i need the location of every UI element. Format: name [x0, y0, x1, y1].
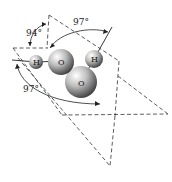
- angle-label-94: 94°: [26, 28, 42, 38]
- atom-label-h-left: H: [33, 58, 40, 67]
- atom-label-o-upper: O: [58, 58, 65, 67]
- atom-label-h-right: H: [91, 55, 98, 64]
- angle-label-97-bottom: 97°: [23, 84, 39, 94]
- atoms: H O H O: [29, 49, 103, 98]
- angle-label-97-top: 97°: [73, 17, 89, 27]
- atom-label-o-lower: O: [78, 79, 85, 88]
- h2o2-diagram: H O H O 94° 97° 97°: [0, 0, 172, 182]
